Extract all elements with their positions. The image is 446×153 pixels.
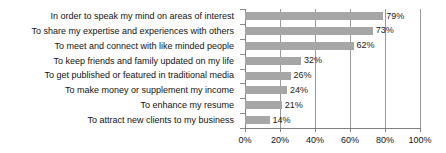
bar-row: 26% — [245, 69, 420, 84]
category-label-row: To meet and connect with like minded peo… — [0, 39, 239, 54]
x-axis-tick-label: 40% — [306, 134, 324, 146]
category-label: To make money or supplement my income — [65, 85, 239, 96]
y-axis-tick — [240, 69, 245, 70]
bar — [245, 72, 291, 80]
y-axis-tick — [240, 98, 245, 99]
bar-row: 79% — [245, 9, 420, 24]
category-label: To enhance my resume — [140, 100, 239, 111]
x-axis-line — [245, 128, 421, 129]
bar-row: 32% — [245, 54, 420, 69]
x-axis-tick — [385, 128, 386, 132]
plot-area: 79%73%62%32%26%24%21%14% — [245, 9, 420, 128]
x-axis-tick-label: 20% — [271, 134, 289, 146]
y-axis-tick — [240, 24, 245, 25]
bar-value-label: 21% — [285, 98, 303, 112]
bar-row: 14% — [245, 113, 420, 128]
x-axis-tick — [315, 128, 316, 132]
gridline-100pct — [420, 9, 421, 128]
bar-row: 73% — [245, 24, 420, 39]
x-axis-tick — [350, 128, 351, 132]
category-label-row: To make money or supplement my income — [0, 83, 239, 98]
x-axis-tick-label: 100% — [408, 134, 431, 146]
category-label: To attract new clients to my business — [87, 115, 239, 126]
bar-row: 21% — [245, 98, 420, 113]
bar — [245, 86, 287, 94]
bar — [245, 12, 383, 20]
category-label: To share my expertise and experiences wi… — [31, 26, 239, 37]
y-axis-tick — [240, 128, 245, 129]
category-label-row: To keep friends and family updated on my… — [0, 54, 239, 69]
bar-value-label: 32% — [304, 53, 322, 67]
category-label-row: To attract new clients to my business — [0, 113, 239, 128]
bar-value-label: 62% — [357, 38, 375, 52]
x-axis-tick — [280, 128, 281, 132]
y-axis-tick — [240, 113, 245, 114]
category-label-row: To get published or featured in traditio… — [0, 69, 239, 84]
category-label: To get published or featured in traditio… — [44, 70, 239, 81]
x-axis-tick — [245, 128, 246, 132]
bar-row: 62% — [245, 39, 420, 54]
x-axis-tick-label: 80% — [376, 134, 394, 146]
bar — [245, 42, 354, 50]
bar-value-label: 24% — [290, 83, 308, 97]
category-label: In order to speak my mind on areas of in… — [50, 11, 239, 22]
bar-value-label: 79% — [386, 9, 404, 23]
horizontal-bar-chart: In order to speak my mind on areas of in… — [0, 0, 446, 153]
y-axis-tick — [240, 54, 245, 55]
bar-value-label: 73% — [376, 23, 394, 37]
bar — [245, 116, 270, 124]
category-label-row: To share my expertise and experiences wi… — [0, 24, 239, 39]
category-label-row: To enhance my resume — [0, 98, 239, 113]
x-axis-tick-label: 0% — [238, 134, 251, 146]
y-axis-tick — [240, 39, 245, 40]
y-axis-tick — [240, 9, 245, 10]
category-label: To meet and connect with like minded peo… — [54, 41, 239, 52]
category-label-row: In order to speak my mind on areas of in… — [0, 9, 239, 24]
bar — [245, 27, 373, 35]
bar-value-label: 26% — [294, 68, 312, 82]
category-label: To keep friends and family updated on my… — [53, 56, 239, 67]
bar-row: 24% — [245, 83, 420, 98]
x-axis-tick — [420, 128, 421, 132]
bar — [245, 101, 282, 109]
category-axis-labels: In order to speak my mind on areas of in… — [0, 9, 239, 128]
bar — [245, 57, 301, 65]
x-axis-tick-label: 60% — [341, 134, 359, 146]
y-axis-tick — [240, 83, 245, 84]
bar-value-label: 14% — [273, 113, 291, 127]
